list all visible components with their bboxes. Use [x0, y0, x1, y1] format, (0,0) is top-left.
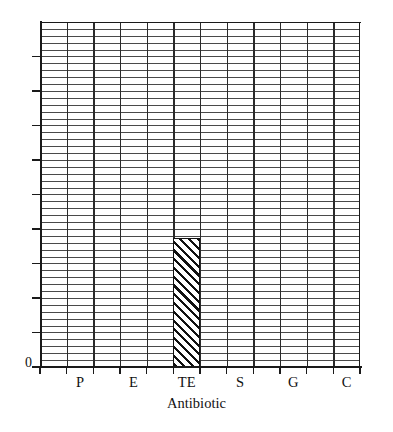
x-axis-tick — [93, 366, 94, 374]
x-axis-tick — [173, 366, 174, 374]
vertical-major-gridlines — [40, 22, 360, 367]
x-axis-tick — [253, 366, 254, 374]
x-axis-tick — [279, 366, 280, 374]
x-axis-tick — [39, 366, 40, 374]
y-axis-tick — [32, 332, 41, 334]
x-axis-label-e: E — [129, 375, 138, 390]
x-axis-tick — [199, 366, 200, 374]
y-axis-zero-label: 0 — [18, 356, 32, 370]
y-axis-tick — [32, 56, 41, 58]
x-axis-label-s: S — [236, 375, 244, 390]
plot-frame-right — [359, 22, 360, 368]
x-axis-tick — [306, 366, 307, 374]
y-axis-tick — [32, 194, 41, 196]
y-axis-tick — [32, 297, 41, 299]
plot-area — [40, 22, 360, 367]
x-axis-tick — [66, 366, 67, 374]
x-axis-tick — [146, 366, 147, 374]
y-axis-tick — [32, 228, 41, 230]
y-axis-tick — [32, 125, 41, 127]
plot-frame-top — [40, 22, 361, 23]
y-axis-tick — [32, 159, 41, 161]
x-axis-label-c: C — [342, 375, 352, 390]
x-axis-label-g: G — [288, 375, 298, 390]
x-axis-tick — [333, 366, 334, 374]
bar-te — [173, 238, 200, 367]
x-axis-tick — [119, 366, 120, 374]
x-axis-label-p: P — [76, 375, 84, 390]
y-axis-tick — [32, 263, 41, 265]
y-axis-tick — [32, 90, 41, 92]
x-axis-label-te: TE — [178, 375, 196, 390]
x-axis-tick — [359, 366, 360, 374]
chart-figure: 0 PETESGC Antibiotic — [0, 0, 393, 432]
x-axis-line — [32, 366, 362, 368]
x-axis-title: Antibiotic — [0, 396, 393, 411]
x-axis-tick — [226, 366, 227, 374]
